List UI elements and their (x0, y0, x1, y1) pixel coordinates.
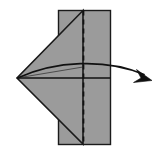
origami-illustration (0, 0, 164, 153)
origami-diagram (0, 0, 164, 153)
